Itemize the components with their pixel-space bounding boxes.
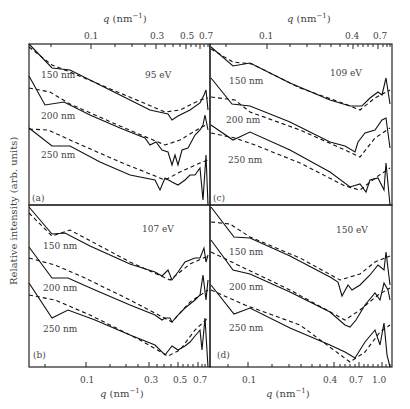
tick-label: 0.4 bbox=[345, 31, 360, 41]
top-ticks-right bbox=[226, 44, 390, 49]
panel-tag: (d) bbox=[217, 350, 230, 360]
tick-label: 0.3 bbox=[150, 31, 165, 41]
figure: q (nm−1) 0.1 0.3 0.5 0.7 q (nm−1) 0.1 0.… bbox=[0, 0, 410, 409]
curve-label: 200 nm bbox=[229, 282, 264, 292]
energy-label: 107 eV bbox=[142, 224, 174, 234]
curve-label: 150 nm bbox=[229, 76, 264, 86]
tick-label: 0.7 bbox=[199, 31, 214, 41]
curve-label: 200 nm bbox=[43, 283, 78, 293]
energy-label: 95 eV bbox=[145, 70, 172, 80]
curve-label: 200 nm bbox=[41, 111, 76, 121]
bottom-axis-left: 0.1 0.3 0.5 0.7 q (nm−1) bbox=[80, 375, 208, 399]
tick-label: 0.1 bbox=[259, 31, 273, 41]
tick-label: 0.5 bbox=[180, 31, 195, 41]
curve-label: 250 nm bbox=[41, 150, 76, 160]
tick-label: 0.7 bbox=[193, 375, 208, 385]
curve-label: 250 nm bbox=[228, 155, 263, 165]
bottom-ticks-right bbox=[228, 362, 390, 367]
top-axis-left: q (nm−1) 0.1 0.3 0.5 0.7 bbox=[84, 12, 214, 41]
curve-label: 150 nm bbox=[43, 241, 78, 251]
tick-label: 0.3 bbox=[144, 375, 159, 385]
panel-tag: (c) bbox=[213, 193, 225, 203]
panel-a: (a) 95 eV 150 nm 200 nm 250 nm bbox=[29, 44, 208, 205]
bottom-xlabel-left: q (nm−1) bbox=[100, 387, 144, 399]
curve-label: 200 nm bbox=[226, 115, 261, 125]
tick-label: 0.1 bbox=[80, 375, 94, 385]
energy-label: 150 eV bbox=[336, 225, 368, 235]
top-xlabel-left: q (nm−1) bbox=[103, 12, 147, 24]
top-ticks-left bbox=[51, 44, 208, 49]
curve-150nm-measured bbox=[29, 44, 208, 120]
panel-tag: (a) bbox=[32, 193, 44, 203]
tick-label: 0.1 bbox=[84, 31, 98, 41]
tick-label: 0.7 bbox=[349, 375, 364, 385]
bottom-xlabel-right: q (nm−1) bbox=[266, 387, 310, 399]
curve-label: 150 nm bbox=[229, 247, 264, 257]
energy-label: 109 eV bbox=[330, 68, 362, 78]
tick-label: 0.1 bbox=[242, 375, 256, 385]
top-axis-right: q (nm−1) 0.1 0.4 0.7 bbox=[259, 12, 388, 41]
panel-tag: (b) bbox=[33, 350, 46, 360]
bottom-axis-right: 0.1 0.4 0.7 1.0 q (nm−1) bbox=[242, 375, 387, 399]
tick-label: 0.4 bbox=[323, 375, 338, 385]
curve-250nm-measured bbox=[29, 128, 208, 205]
curve-label: 250 nm bbox=[43, 324, 78, 334]
top-xlabel-right: q (nm−1) bbox=[287, 12, 331, 24]
tick-label: 0.7 bbox=[373, 31, 388, 41]
y-axis-label: Relative intensity (arb. units) bbox=[8, 137, 19, 285]
panel-b: (b) 107 eV 150 nm 200 nm 250 nm bbox=[29, 207, 208, 367]
bottom-ticks-left bbox=[45, 362, 205, 367]
tick-label: 0.5 bbox=[173, 375, 188, 385]
curve-250nm-measured bbox=[211, 125, 390, 205]
panel-c: (c) 109 eV 150 nm 200 nm 250 nm bbox=[211, 47, 390, 205]
curve-label: 150 nm bbox=[41, 70, 76, 80]
tick-label: 1.0 bbox=[372, 375, 387, 385]
panel-d: (d) 150 eV 150 nm 200 nm 250 nm bbox=[211, 207, 390, 367]
curve-label: 250 nm bbox=[229, 323, 264, 333]
